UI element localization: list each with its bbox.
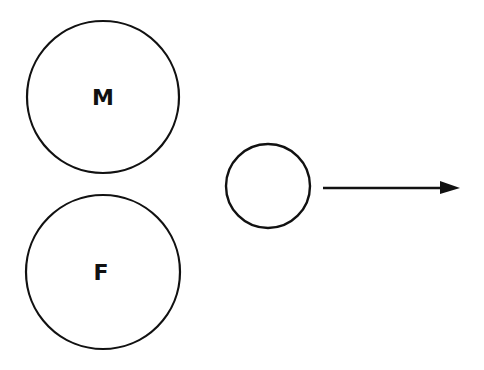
male-label: M — [92, 85, 114, 110]
offspring-circle — [226, 144, 310, 228]
arrow-head-icon — [440, 181, 460, 194]
arrow — [323, 181, 460, 194]
female-node: F — [26, 195, 180, 349]
offspring-node — [226, 144, 310, 228]
female-label: F — [93, 260, 108, 285]
diagram-canvas: M F — [0, 0, 484, 370]
male-node: M — [27, 21, 179, 173]
